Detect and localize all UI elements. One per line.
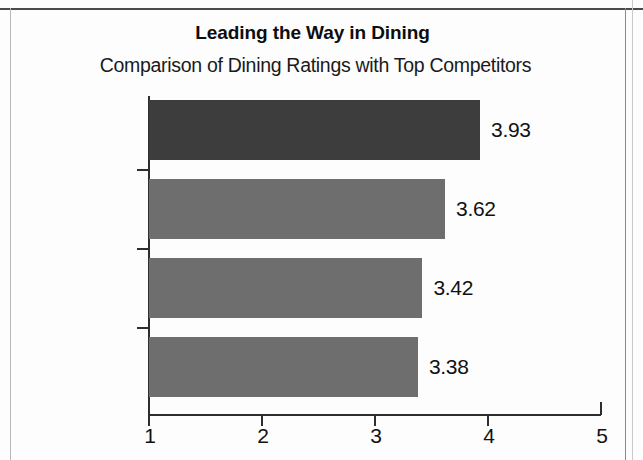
x-axis-label: 4 (474, 424, 504, 448)
x-axis-label: 5 (587, 424, 617, 448)
bar-row: Wyatt3.38 (149, 337, 601, 397)
bar-prestigio (149, 100, 480, 160)
y-axis-tick (137, 327, 149, 329)
y-axis-tick (137, 248, 149, 250)
bar-great-falls (149, 179, 445, 239)
chart-title: Leading the Way in Dining (0, 22, 625, 44)
bar-value-label: 3.93 (491, 118, 531, 142)
bar-wyatt (149, 337, 418, 397)
bar-value-label: 3.38 (429, 355, 469, 379)
bar-grand-swan (149, 258, 422, 318)
page-border-right-outer (632, 0, 633, 460)
x-axis-label: 2 (248, 424, 278, 448)
bar-value-label: 3.62 (456, 197, 496, 221)
chart-subtitle: Comparison of Dining Ratings with Top Co… (0, 54, 631, 77)
x-axis-label: 3 (361, 424, 391, 448)
bar-row: Prestigio3.93 (149, 100, 601, 160)
bar-value-label: 3.42 (433, 276, 473, 300)
bar-row: Grand Swan3.42 (149, 258, 601, 318)
page-border-top (0, 8, 643, 10)
chart-page: Leading the Way in Dining Comparison of … (0, 0, 643, 460)
x-axis-label: 1 (135, 424, 165, 448)
bar-row: Great Falls3.62 (149, 179, 601, 239)
y-axis-tick (137, 169, 149, 171)
x-axis-tick (600, 402, 602, 415)
plot-area: Prestigio3.93Great Falls3.62Grand Swan3.… (149, 98, 601, 413)
